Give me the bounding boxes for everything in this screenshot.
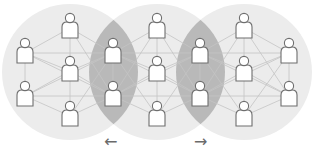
- arrow-right-icon: →: [194, 134, 207, 150]
- community-overlap-diagram: [0, 0, 314, 157]
- arrow-left-icon: ←: [104, 134, 117, 150]
